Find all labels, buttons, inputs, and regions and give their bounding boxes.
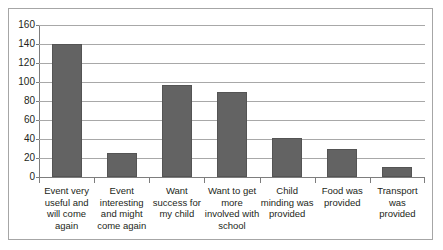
bar[interactable] [52,44,82,177]
x-axis-tick [260,178,261,183]
bar-slot [370,25,425,177]
chart-frame: 160140120100806040200 Event very useful … [8,8,433,240]
x-axis-category-labels: Event very useful and will come againEve… [39,185,425,239]
bar-slot [94,25,149,177]
y-axis-tick-marks [9,25,40,178]
x-axis-category-label: Food was provided [315,185,370,208]
x-axis-tick [94,178,95,183]
x-axis-category-label: Want to get more involved with school [204,185,259,231]
bar-slot [260,25,315,177]
x-axis-category-label: Event interesting and might come again [94,185,149,231]
x-axis-tick [424,178,425,183]
x-axis-tick [315,178,316,183]
bar-slot [149,25,204,177]
bar-slot [315,25,370,177]
x-axis-category-label: Child minding was provided [260,185,315,220]
bar-slot [39,25,94,177]
x-axis-tick [370,178,371,183]
bar-slot [204,25,259,177]
bar[interactable] [107,153,137,177]
x-axis-category-label: Event very useful and will come again [39,185,94,231]
x-axis-tick [149,178,150,183]
x-axis-category-label: Transport was provided [370,185,425,220]
x-axis-category-label: Want success for my child [149,185,204,220]
bar[interactable] [272,138,302,177]
bar[interactable] [382,167,412,177]
bar[interactable] [217,92,247,178]
x-axis-tick [39,178,40,183]
bar[interactable] [327,149,357,178]
plot-area [39,25,425,177]
x-axis-tick [204,178,205,183]
x-axis-tick-marks [39,178,425,183]
bar[interactable] [162,85,192,177]
